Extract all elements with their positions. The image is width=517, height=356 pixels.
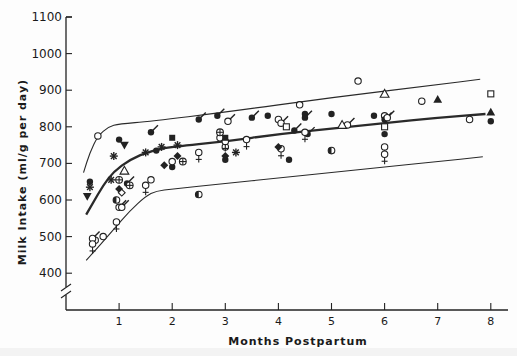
x-tick-label: 1: [116, 315, 123, 328]
point-filled-circle: [488, 118, 494, 124]
point-open-circle: [466, 116, 472, 122]
x-tick-label: 6: [381, 315, 388, 328]
point-half-filled-circle: [195, 191, 202, 198]
point-female-symbol: [89, 241, 95, 254]
point-female-symbol: [243, 136, 249, 149]
point-asterisk: [86, 183, 94, 191]
point-filled-diamond: [160, 161, 168, 169]
point-open-triangle: [120, 166, 129, 174]
x-tick-label: 8: [487, 315, 494, 328]
point-filled-square: [222, 135, 228, 141]
point-filled-triangle: [486, 108, 495, 116]
point-filled-circle: [328, 111, 334, 117]
point-filled-circle: [286, 157, 292, 163]
data-points: [83, 78, 495, 254]
chart-svg: 4005006007008009001000110012345678 Milk …: [0, 0, 517, 348]
point-asterisk: [158, 143, 166, 151]
point-circled-plus: [126, 182, 133, 189]
y-tick-label: 600: [39, 193, 62, 207]
point-filled-circle: [153, 147, 159, 153]
point-open-square: [382, 124, 388, 130]
curve-lower: [86, 157, 483, 261]
point-asterisk: [232, 148, 240, 156]
x-axis-title: Months Postpartum: [228, 335, 368, 348]
y-axis-title: Milk Intake (ml/g per day): [16, 79, 29, 265]
y-tick-label: 400: [39, 266, 62, 280]
point-filled-circle-with-stroke: [148, 125, 158, 135]
y-tick-label: 1100: [31, 10, 62, 24]
x-tick-label: 4: [275, 315, 282, 328]
y-tick-label: 700: [39, 156, 62, 170]
point-open-circle: [296, 102, 302, 108]
point-open-circle: [100, 233, 106, 239]
point-half-filled-circle: [328, 147, 335, 154]
point-open-circle-with-stroke: [384, 111, 394, 121]
point-filled-circle-with-stroke: [249, 111, 259, 121]
point-female-symbol: [381, 151, 387, 164]
x-tick-label: 7: [434, 315, 441, 328]
point-open-circle: [148, 177, 154, 183]
point-filled-inverted-triangle: [120, 142, 129, 150]
point-female-symbol: [196, 149, 202, 162]
x-tick-label: 3: [222, 315, 229, 328]
point-circled-plus: [217, 129, 224, 136]
y-tick-label: 900: [39, 83, 62, 97]
x-tick-label: 5: [328, 315, 335, 328]
point-circled-plus: [179, 158, 186, 165]
point-asterisk: [110, 152, 118, 160]
x-tick-label: 2: [169, 315, 176, 328]
point-open-square: [488, 91, 494, 97]
point-female-symbol: [142, 182, 148, 195]
point-half-filled-circle: [113, 197, 120, 204]
point-filled-inverted-triangle: [83, 193, 92, 201]
y-tick-label: 1000: [31, 47, 62, 61]
point-filled-triangle: [433, 95, 442, 103]
point-filled-circle: [381, 131, 387, 137]
point-open-circle: [169, 158, 175, 164]
point-asterisk: [107, 176, 115, 184]
point-open-circle: [95, 133, 101, 139]
bottom-strip: [0, 348, 517, 356]
y-tick-label: 800: [39, 120, 62, 134]
point-open-circle: [355, 78, 361, 84]
point-filled-circle: [265, 113, 271, 119]
y-tick-label: 500: [39, 230, 62, 244]
scatter-chart: 4005006007008009001000110012345678 Milk …: [0, 0, 517, 348]
point-open-circle-with-stroke: [225, 114, 235, 124]
point-circled-plus: [116, 176, 123, 183]
point-female-symbol: [113, 219, 119, 232]
point-filled-square: [169, 135, 175, 141]
axes: 4005006007008009001000110012345678: [31, 10, 508, 328]
point-open-circle: [419, 98, 425, 104]
reference-curves: [84, 79, 486, 260]
point-filled-circle-with-stroke: [214, 109, 224, 119]
point-asterisk: [174, 141, 182, 149]
point-open-square: [283, 124, 289, 130]
point-asterisk: [142, 148, 150, 156]
point-filled-circle-with-stroke: [196, 112, 206, 122]
point-filled-circle: [371, 113, 377, 119]
